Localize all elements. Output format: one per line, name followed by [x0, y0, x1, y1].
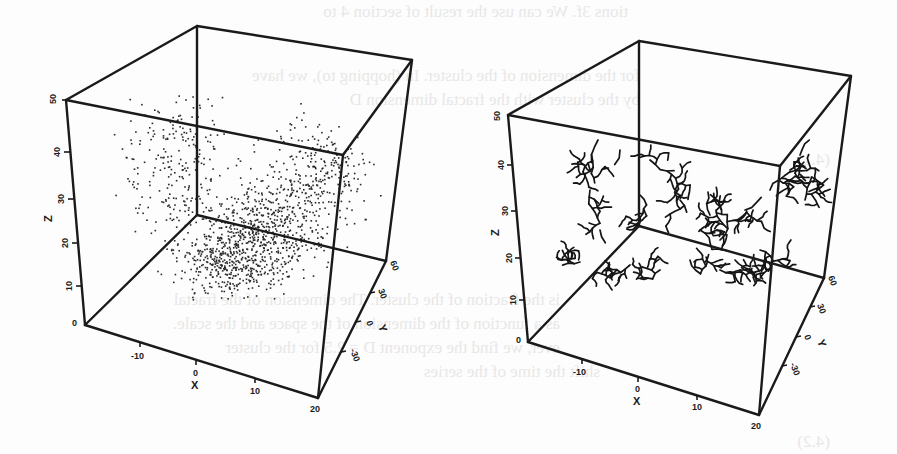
x-axis: -10 0 X 10 20 — [573, 359, 761, 431]
branch-segment — [716, 187, 717, 196]
branch-segment — [589, 223, 596, 225]
branch-segment — [682, 186, 686, 196]
branch-segment — [598, 207, 612, 208]
y-axis: 60 30 0 Y -30 — [782, 274, 839, 377]
y-tick-label: -30 — [788, 361, 802, 377]
scanned-page: tions 3f. We can use the result of secti… — [0, 0, 897, 454]
branch-segment — [578, 224, 590, 232]
branch-segment — [600, 230, 605, 243]
branch-segment — [688, 185, 690, 199]
z-axis-label: Z — [489, 229, 501, 236]
branch-segment — [633, 258, 634, 264]
branch-segment — [695, 267, 702, 269]
x-tick-label: 10 — [692, 402, 702, 412]
branch-segment — [741, 273, 743, 282]
x-tick-label: -10 — [573, 367, 586, 377]
branch-segment — [757, 281, 766, 283]
branch-segment — [787, 265, 796, 268]
branch-segment — [589, 190, 590, 204]
branch-segment — [650, 160, 674, 171]
branch-segment — [665, 206, 684, 218]
branch-segment — [591, 173, 594, 183]
branch-segment — [745, 197, 761, 210]
z-tick-label: 10 — [508, 295, 518, 305]
branch-segment — [705, 233, 715, 234]
x-axis-label: X — [633, 395, 641, 407]
z-tick-label: 40 — [496, 160, 506, 170]
branch-segment — [807, 155, 810, 169]
branch-segment — [594, 167, 605, 178]
branch-segment — [787, 240, 791, 251]
z-tick-label: 50 — [492, 111, 502, 121]
branch-segment — [697, 248, 703, 255]
tree-3d-plot: 50 40 30 Z 20 10 0 -10 0 X 10 20 60 30 0… — [0, 0, 897, 454]
branch-segment — [744, 260, 747, 266]
x-tick-label: 20 — [751, 421, 761, 431]
x-tick-label: 0 — [635, 384, 640, 394]
branch-segment — [712, 221, 721, 223]
branch-segment — [660, 153, 669, 155]
branch-segment — [640, 195, 647, 205]
branch-segment — [787, 251, 788, 259]
branch-segment — [602, 200, 609, 202]
branch-segment — [813, 168, 816, 182]
branch-segment — [649, 145, 651, 156]
branch-segment — [647, 254, 651, 269]
branch-segment — [787, 261, 790, 266]
z-tick-label: 20 — [504, 253, 514, 263]
bounding-box — [508, 41, 851, 415]
branch-segment — [800, 140, 809, 155]
branch-segment — [570, 151, 579, 160]
branch-segment — [579, 251, 580, 260]
y-tick-label: 60 — [826, 274, 839, 287]
branch-segment — [561, 241, 568, 250]
branch-segment — [652, 248, 658, 254]
branch-segment — [626, 216, 636, 220]
branch-segment — [571, 251, 572, 257]
branch-segment — [567, 166, 578, 172]
branch-segment — [666, 226, 669, 233]
branch-segment — [726, 282, 735, 283]
branch-segment — [715, 224, 720, 229]
branch-segment — [821, 197, 832, 202]
branch-segment — [807, 168, 819, 171]
branch-segment — [638, 278, 652, 279]
branch-segment — [676, 164, 683, 178]
branch-segment — [757, 211, 767, 221]
branch-segment — [694, 259, 702, 262]
branch-segment — [578, 153, 585, 163]
branch-segment — [597, 272, 610, 277]
branch-segment — [761, 221, 770, 231]
z-tick-label: 0 — [516, 335, 521, 345]
branch-segment — [615, 150, 620, 165]
branch-segment — [657, 201, 668, 203]
branch-segment — [627, 229, 633, 230]
y-tick-label: 30 — [815, 302, 828, 315]
branch-segment — [580, 174, 586, 185]
branch-segment — [615, 278, 619, 286]
y-tick-label: 0 — [802, 333, 813, 341]
branch-segment — [606, 280, 613, 290]
branch-segment — [696, 213, 700, 219]
branch-segment — [574, 253, 575, 259]
branch-segment — [682, 162, 690, 168]
branch-segment — [786, 196, 798, 203]
branch-segment — [574, 183, 580, 184]
y-axis-label: Y — [815, 338, 829, 350]
branch-segment — [641, 156, 658, 160]
z-tick-label: 30 — [500, 206, 510, 216]
branch-segment — [737, 220, 738, 233]
branch-segment — [668, 153, 669, 160]
branch-segment — [711, 260, 723, 264]
branch-segment — [619, 274, 625, 279]
branch-segment — [605, 167, 614, 177]
branch-segment — [619, 216, 626, 226]
branch-segment — [806, 204, 818, 206]
branch-segment — [593, 279, 597, 287]
